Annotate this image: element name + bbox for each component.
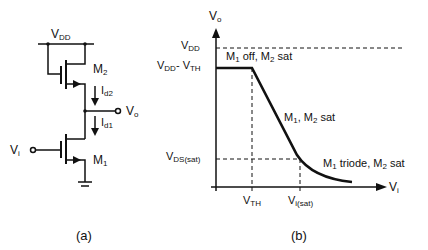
- m2-source-wire: [66, 84, 85, 139]
- y-axis-label: Vo: [209, 10, 221, 24]
- circuit-caption: (a): [76, 229, 92, 242]
- vo-label: Vo: [126, 105, 138, 119]
- x-tick-visat: Vi(sat): [288, 195, 313, 208]
- x-tick-vth: VTH: [243, 195, 261, 208]
- chart-caption: (b): [291, 229, 307, 242]
- vdd-node-left: [46, 42, 50, 46]
- id2-label: Id2: [101, 85, 113, 98]
- region-label-cutoff: M1 off, M2 sat: [226, 51, 292, 64]
- x-axis-arrow-icon: [376, 183, 387, 191]
- y-tick-vdd: VDD: [181, 40, 200, 53]
- m2-drain-wire: [66, 44, 85, 64]
- m2-gate-wire: [48, 44, 60, 74]
- y-axis-arrow-icon: [212, 28, 220, 38]
- vi-terminal: [31, 148, 36, 153]
- m2-source-arrow-icon: [73, 80, 81, 88]
- vdd-label: VDD: [51, 28, 71, 42]
- m1-label: M1: [93, 154, 107, 168]
- id1-arrow-icon: [91, 128, 99, 136]
- vdd-node-right: [83, 42, 87, 46]
- m1-source-arrow-icon: [73, 156, 81, 164]
- region-label-triode: M1 triode, M2 sat: [323, 158, 405, 171]
- id1-label: Id1: [101, 117, 113, 130]
- region-label-saturation: M1, M2 sat: [284, 112, 335, 125]
- y-tick-vdd-minus-vth: VDD- VTH: [157, 60, 201, 73]
- vo-terminal: [116, 109, 121, 114]
- y-tick-vdssat: VDS(sat): [166, 151, 200, 164]
- vi-label: Vi: [10, 144, 20, 158]
- m1-source-wire: [66, 160, 85, 182]
- id2-arrow-icon: [91, 98, 99, 106]
- m2-label: M2: [93, 63, 107, 77]
- vo-node: [83, 109, 87, 113]
- x-axis-label: Vi: [389, 181, 399, 195]
